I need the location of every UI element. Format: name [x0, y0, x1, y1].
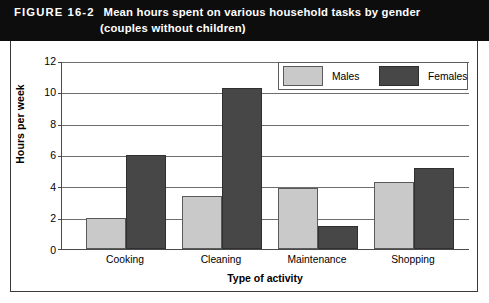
bar-group-cooking: [86, 62, 164, 249]
legend-entry-males[interactable]: Males: [283, 66, 359, 86]
legend-label-females: Females: [428, 71, 467, 82]
figure-panel: FIGURE 16-2Mean hours spent on various h…: [0, 0, 489, 303]
legend-entry-females[interactable]: Females: [379, 66, 467, 86]
bar-cooking-males[interactable]: [86, 218, 126, 249]
bar-shopping-males[interactable]: [374, 182, 414, 249]
y-tick-label-10: 10: [30, 87, 56, 97]
y-tick-label-4: 4: [30, 182, 56, 192]
bar-shopping-females[interactable]: [414, 168, 454, 250]
bar-cleaning-males[interactable]: [182, 196, 222, 249]
y-tick-mark-0: [58, 249, 62, 250]
bar-cooking-females[interactable]: [126, 155, 166, 249]
chart-canvas: Hours per week 0 2 4 6 8 10 12: [0, 0, 489, 303]
y-tick-mark-4: [58, 187, 62, 188]
bar-cleaning-females[interactable]: [222, 88, 262, 249]
bar-group-shopping: [374, 62, 452, 249]
y-tick-mark-2: [58, 219, 62, 220]
y-tick-mark-12: [58, 62, 62, 63]
y-tick-label-0: 0: [30, 245, 56, 255]
bar-group-maintenance: [278, 62, 356, 249]
legend-label-males: Males: [332, 71, 359, 82]
y-tick-label-12: 12: [30, 56, 56, 66]
y-tick-mark-10: [58, 93, 62, 94]
y-tick-label-8: 8: [30, 119, 56, 129]
chart-legend: Males Females: [278, 62, 468, 90]
plot-area: Cooking Cleaning Maintenance Shopping: [61, 62, 469, 250]
x-tick-label-cooking: Cooking: [76, 254, 174, 265]
y-tick-label-6: 6: [30, 150, 56, 160]
legend-swatch-females-icon: [379, 66, 419, 86]
legend-swatch-males-icon: [283, 66, 323, 86]
y-tick-mark-8: [58, 125, 62, 126]
x-tick-label-cleaning: Cleaning: [172, 254, 270, 265]
x-axis-title: Type of activity: [61, 272, 469, 284]
bar-group-cleaning: [182, 62, 260, 249]
y-axis-title: Hours per week: [14, 69, 26, 179]
bar-maintenance-males[interactable]: [278, 188, 318, 249]
y-tick-label-2: 2: [30, 213, 56, 223]
y-tick-mark-6: [58, 156, 62, 157]
bar-maintenance-females[interactable]: [318, 226, 358, 250]
x-tick-label-maintenance: Maintenance: [268, 254, 366, 265]
x-tick-label-shopping: Shopping: [364, 254, 462, 265]
